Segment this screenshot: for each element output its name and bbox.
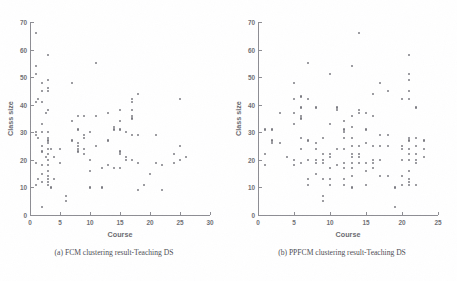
data-point	[300, 106, 302, 108]
data-point	[329, 167, 331, 169]
data-point	[47, 131, 49, 133]
data-point	[47, 90, 49, 92]
data-point	[293, 164, 295, 166]
x-tick-label: 25	[435, 219, 442, 226]
data-point	[315, 173, 317, 175]
data-point	[408, 184, 410, 186]
data-point	[408, 159, 410, 161]
x-tick-label: 20	[147, 219, 154, 226]
data-point	[35, 134, 37, 136]
data-point	[343, 137, 345, 139]
data-point	[131, 159, 133, 161]
y-tick	[31, 22, 34, 23]
data-point	[365, 162, 367, 164]
data-point	[358, 162, 360, 164]
y-tick	[31, 187, 34, 188]
data-point	[343, 167, 345, 169]
data-point	[161, 189, 163, 191]
data-point	[365, 184, 367, 186]
data-point	[47, 184, 49, 186]
data-point	[358, 32, 360, 34]
data-point	[401, 175, 403, 177]
data-point	[408, 178, 410, 180]
data-point	[83, 148, 85, 150]
data-point	[351, 175, 353, 177]
y-tick-label: 30	[14, 129, 27, 136]
data-point	[119, 128, 121, 130]
data-point	[408, 153, 410, 155]
y-tick	[31, 132, 34, 133]
x-tick	[438, 212, 439, 215]
data-point	[315, 159, 317, 161]
data-point	[125, 131, 127, 133]
data-point	[47, 79, 49, 81]
data-point	[408, 90, 410, 92]
data-point	[89, 170, 91, 172]
panel-a: 010203040506070051015202530 Class size C…	[0, 0, 228, 281]
data-point	[101, 186, 103, 188]
data-point	[89, 186, 91, 188]
data-point	[387, 134, 389, 136]
data-point	[131, 109, 133, 111]
x-tick-label: 15	[363, 219, 370, 226]
data-point	[365, 142, 367, 144]
data-point	[119, 120, 121, 122]
x-tick	[366, 212, 367, 215]
data-point	[315, 142, 317, 144]
y-tick	[259, 77, 262, 78]
data-point	[351, 156, 353, 158]
data-point	[155, 162, 157, 164]
data-point	[47, 87, 49, 89]
data-point	[279, 142, 281, 144]
data-point	[47, 159, 49, 161]
data-point	[351, 126, 353, 128]
figure-container: 010203040506070051015202530 Class size C…	[0, 0, 457, 281]
data-point	[131, 134, 133, 136]
y-axis-title-a: Class size	[6, 88, 15, 148]
data-point	[293, 112, 295, 114]
data-point	[423, 156, 425, 158]
data-point	[329, 178, 331, 180]
data-point	[89, 159, 91, 161]
data-point	[47, 142, 49, 144]
data-point	[315, 162, 317, 164]
data-point	[322, 159, 324, 161]
data-point	[41, 164, 43, 166]
data-point	[35, 73, 37, 75]
y-tick	[31, 215, 34, 216]
data-point	[89, 131, 91, 133]
x-tick-label: 15	[117, 219, 124, 226]
data-point	[408, 148, 410, 150]
data-point	[315, 148, 317, 150]
data-point	[372, 159, 374, 161]
data-point	[45, 112, 47, 114]
data-point	[401, 145, 403, 147]
x-axis-title-b: Course	[336, 230, 361, 239]
y-tick-label: 0	[242, 212, 255, 219]
x-tick-label: 0	[28, 219, 31, 226]
data-point	[415, 137, 417, 139]
data-point	[71, 82, 73, 84]
y-tick	[31, 77, 34, 78]
data-point	[161, 164, 163, 166]
plot-area-a: 010203040506070051015202530	[30, 22, 210, 215]
y-tick-label: 20	[242, 156, 255, 163]
data-point	[408, 73, 410, 75]
y-tick-label: 40	[242, 101, 255, 108]
x-axis-line	[30, 215, 210, 216]
data-point	[351, 167, 353, 169]
data-point	[300, 148, 302, 150]
data-point	[37, 137, 39, 139]
data-point	[343, 131, 345, 133]
data-point	[137, 189, 139, 191]
x-tick-label: 25	[177, 219, 184, 226]
y-tick	[259, 132, 262, 133]
data-point	[372, 167, 374, 169]
data-point	[173, 162, 175, 164]
data-point	[415, 106, 417, 108]
data-point	[343, 148, 345, 150]
data-point	[401, 148, 403, 150]
caption-b: (b) PPFCM clustering result-Teaching DS	[228, 248, 456, 257]
x-tick-label: 20	[399, 219, 406, 226]
data-point	[408, 79, 410, 81]
